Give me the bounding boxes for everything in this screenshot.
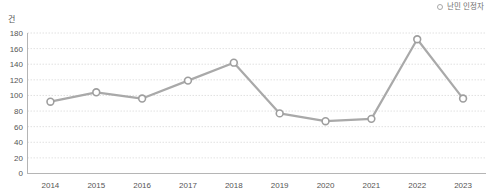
x-tick-label: 2019 xyxy=(271,181,289,190)
data-point-marker[interactable] xyxy=(139,95,146,102)
chart-plot-area: 020406080100120140160180 201420152016201… xyxy=(0,0,490,196)
x-tick-label: 2022 xyxy=(408,181,426,190)
y-tick-label: 40 xyxy=(14,138,23,147)
y-tick-label: 100 xyxy=(10,91,24,100)
data-point-marker[interactable] xyxy=(368,115,375,122)
x-tick-label: 2023 xyxy=(454,181,472,190)
y-tick-label: 60 xyxy=(14,123,23,132)
x-tick-label: 2021 xyxy=(362,181,380,190)
y-tick-label: 0 xyxy=(19,169,24,178)
y-tick-label: 180 xyxy=(10,29,24,38)
x-axis-ticks-group: 2014201520162017201820192020202120222023 xyxy=(42,181,473,190)
x-tick-label: 2014 xyxy=(42,181,60,190)
y-tick-label: 140 xyxy=(10,60,24,69)
x-tick-label: 2015 xyxy=(87,181,105,190)
data-point-marker[interactable] xyxy=(185,77,192,84)
data-point-marker[interactable] xyxy=(230,59,237,66)
data-point-marker[interactable] xyxy=(322,118,329,125)
line-chart: 난민 인정자 건 020406080100120140160180 201420… xyxy=(0,0,490,196)
x-tick-label: 2020 xyxy=(317,181,335,190)
y-tick-label: 20 xyxy=(14,154,23,163)
x-tick-label: 2017 xyxy=(179,181,197,190)
y-tick-label: 120 xyxy=(10,76,24,85)
y-tick-label: 160 xyxy=(10,45,24,54)
data-point-marker[interactable] xyxy=(93,89,100,96)
x-tick-label: 2016 xyxy=(133,181,151,190)
data-point-marker[interactable] xyxy=(460,95,467,102)
y-axis-ticks-group: 020406080100120140160180 xyxy=(10,29,24,179)
y-tick-label: 80 xyxy=(14,107,23,116)
x-tick-label: 2018 xyxy=(225,181,243,190)
data-point-marker[interactable] xyxy=(276,110,283,117)
data-point-marker[interactable] xyxy=(414,36,421,43)
data-point-marker[interactable] xyxy=(47,98,54,105)
gridlines-group xyxy=(28,33,487,174)
